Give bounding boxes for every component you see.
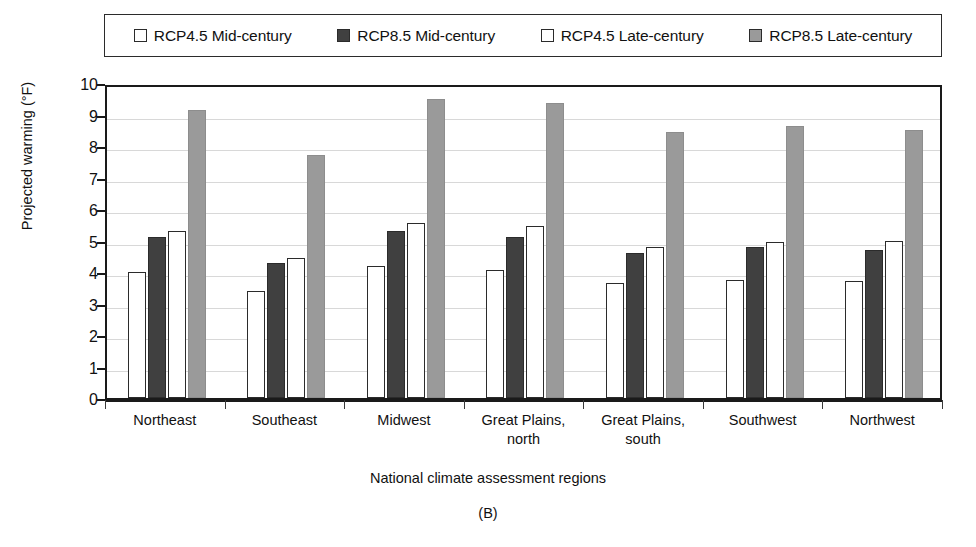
bar (287, 258, 305, 398)
x-axis-category-label: Southwest (703, 411, 823, 430)
bar (546, 103, 564, 398)
y-axis-tick-mark (97, 399, 105, 401)
bar (626, 253, 644, 398)
bar (646, 247, 664, 398)
x-axis-category-label: Great Plains,north (464, 411, 584, 449)
bar (865, 250, 883, 398)
x-axis-category-line: Great Plains, (583, 411, 703, 430)
x-axis-category-label: Southeast (225, 411, 345, 430)
bar-group (466, 87, 586, 398)
bar (367, 266, 385, 398)
legend-swatch-icon (541, 29, 554, 42)
y-axis-tick-mark (97, 84, 105, 86)
bar (128, 272, 146, 398)
x-axis-category-line: Northwest (822, 411, 942, 430)
legend-entry: RCP8.5 Late-century (749, 27, 912, 45)
panel-label: (B) (0, 505, 976, 521)
bar (766, 242, 784, 398)
bar (427, 99, 445, 398)
legend-label: RCP8.5 Mid-century (357, 27, 495, 45)
legend-entry: RCP4.5 Mid-century (134, 27, 292, 45)
bar-group (824, 87, 944, 398)
x-axis-line (105, 400, 942, 402)
y-axis-title: Projected warming (°F) (19, 6, 35, 306)
bar (506, 237, 524, 398)
legend-swatch-icon (337, 29, 350, 42)
y-axis-tick-label: 7 (64, 171, 98, 189)
legend-swatch-icon (134, 29, 147, 42)
y-axis-tick-label: 8 (64, 139, 98, 157)
legend-label: RCP4.5 Late-century (561, 27, 704, 45)
bar (905, 130, 923, 398)
bar (307, 155, 325, 398)
y-axis-tick-label: 6 (64, 202, 98, 220)
bar (746, 247, 764, 398)
x-axis-category-label: Northwest (822, 411, 942, 430)
x-axis-tick-mark (583, 400, 584, 409)
x-axis-title: National climate assessment regions (0, 470, 976, 486)
x-axis-tick-mark (105, 400, 106, 409)
legend-entry: RCP4.5 Late-century (541, 27, 704, 45)
x-axis-tick-mark (703, 400, 704, 409)
x-axis-tick-mark (344, 400, 345, 409)
legend-swatch-icon (749, 29, 762, 42)
plot-inner (107, 87, 940, 398)
x-axis-tick-mark (942, 400, 943, 409)
bar (247, 291, 265, 398)
y-axis-tick-label: 5 (64, 234, 98, 252)
figure-panel-b: RCP4.5 Mid-centuryRCP8.5 Mid-centuryRCP4… (0, 0, 976, 547)
bar (786, 126, 804, 398)
legend-label: RCP8.5 Late-century (769, 27, 912, 45)
x-axis-category-line: Southeast (225, 411, 345, 430)
x-axis-category-line: south (583, 430, 703, 449)
bar (387, 231, 405, 398)
y-axis-tick-label: 1 (64, 360, 98, 378)
x-axis-tick-mark (822, 400, 823, 409)
bar (407, 223, 425, 398)
bar-group (227, 87, 347, 398)
bar (885, 241, 903, 399)
x-axis-category-label: Northeast (105, 411, 225, 430)
y-axis-tick-label: 2 (64, 328, 98, 346)
y-axis-tick-mark (97, 116, 105, 118)
y-axis-tick-mark (97, 210, 105, 212)
y-axis-tick-label: 0 (64, 391, 98, 409)
x-axis-category-line: Great Plains, (464, 411, 584, 430)
bar (267, 263, 285, 398)
x-axis-category-label: Great Plains,south (583, 411, 703, 449)
x-axis-category-line: north (464, 430, 584, 449)
y-axis-tick-mark (97, 273, 105, 275)
bar (486, 270, 504, 398)
bar (666, 132, 684, 398)
plot-area (105, 85, 942, 400)
bar-group (346, 87, 466, 398)
bar (845, 281, 863, 398)
bar-group (107, 87, 227, 398)
y-axis-tick-label: 4 (64, 265, 98, 283)
y-axis-tick-label: 10 (64, 76, 98, 94)
y-axis-tick-mark (97, 368, 105, 370)
y-axis-tick-mark (97, 147, 105, 149)
legend-label: RCP4.5 Mid-century (154, 27, 292, 45)
x-axis-category-line: Southwest (703, 411, 823, 430)
y-axis-tick-mark (97, 242, 105, 244)
bar (168, 231, 186, 398)
y-axis-tick-mark (97, 305, 105, 307)
legend-entry: RCP8.5 Mid-century (337, 27, 495, 45)
bar (188, 110, 206, 398)
x-axis-category-label: Midwest (344, 411, 464, 430)
chart-legend: RCP4.5 Mid-centuryRCP8.5 Mid-centuryRCP4… (104, 14, 942, 57)
bar-group (585, 87, 705, 398)
bar (148, 237, 166, 398)
x-axis-tick-mark (225, 400, 226, 409)
x-axis-category-line: Northeast (105, 411, 225, 430)
x-axis-category-line: Midwest (344, 411, 464, 430)
y-axis-tick-labels: 109876543210 (58, 85, 98, 400)
bar (606, 283, 624, 398)
bar (726, 280, 744, 398)
y-axis-tick-mark (97, 336, 105, 338)
x-axis-tick-mark (464, 400, 465, 409)
bar (526, 226, 544, 398)
y-axis-tick-label: 3 (64, 297, 98, 315)
y-axis-tick-label: 9 (64, 108, 98, 126)
